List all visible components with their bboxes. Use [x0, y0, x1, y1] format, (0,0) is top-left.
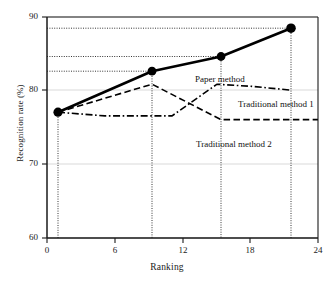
- series-label-traditional-method-1: Traditional method 1: [238, 100, 314, 109]
- x-axis-title: Ranking: [0, 262, 334, 272]
- data-point-marker: [286, 23, 296, 33]
- x-tick-label-24: 24: [308, 246, 328, 255]
- series-label-paper-method: Paper method: [195, 75, 245, 84]
- data-point-marker: [217, 52, 226, 61]
- data-point-marker: [53, 108, 62, 117]
- horizontal-gridlines: [47, 17, 318, 238]
- series-label-traditional-method-2: Traditional method 2: [196, 140, 272, 149]
- y-axis-title: Recognition rate (%): [15, 53, 25, 193]
- y-tick-label-90: 90: [18, 12, 38, 21]
- y-tick-label-60: 60: [18, 233, 38, 242]
- data-point-marker: [148, 67, 157, 76]
- recognition-rate-line-chart: 90 80 70 60 0 6 12 18 24 Ranking Recogni…: [0, 0, 334, 284]
- plot-area-svg: [0, 0, 334, 284]
- axes-frame: [47, 17, 318, 238]
- x-tick-label-12: 12: [173, 246, 193, 255]
- x-tick-label-18: 18: [240, 246, 260, 255]
- x-tick-label-0: 0: [37, 246, 57, 255]
- reference-lines: [47, 28, 291, 71]
- vertical-droplines: [58, 28, 291, 238]
- x-tick-label-6: 6: [105, 246, 125, 255]
